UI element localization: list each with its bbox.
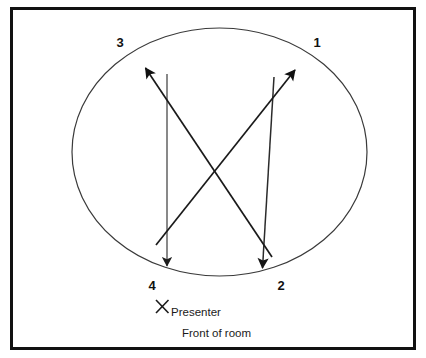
- position-label-3: 3: [116, 35, 123, 50]
- position-label-2: 2: [277, 278, 284, 293]
- figure-border: [12, 9, 415, 349]
- room-rotation-diagram: 3 1 4 2 Presenter Front of room: [0, 0, 426, 358]
- position-label-1: 1: [313, 35, 320, 50]
- presenter-label: Presenter: [171, 306, 221, 318]
- front-of-room-label: Front of room: [182, 327, 251, 339]
- diagram-canvas: 3 1 4 2 Presenter Front of room: [0, 0, 426, 358]
- position-label-4: 4: [148, 278, 156, 293]
